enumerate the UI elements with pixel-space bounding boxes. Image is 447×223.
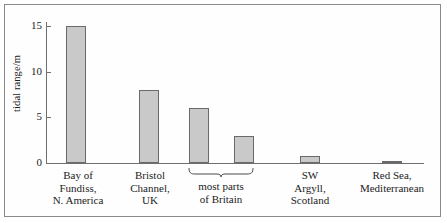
cat-line: SW [273,169,347,182]
cat-line: Argyll, [273,182,347,195]
cat-line: Mediterranean [340,182,444,195]
bar-bristol-channel [139,90,159,163]
brace-icon [188,168,254,177]
bar-britain-low [234,136,254,163]
cat-line: Bristol [111,169,189,182]
cat-line: Red Sea, [340,169,444,182]
cat-line: Scotland [273,194,347,207]
y-tick-mark-15 [46,26,51,27]
y-tick-mark-10 [46,72,51,73]
cat-line: of Britain [181,193,261,206]
y-tick-label-0: 0 [18,156,42,168]
cat-line: Channel, [111,182,189,195]
bar-bay-of-fundiss [66,26,86,163]
category-label-sw-argyll: SW Argyll, Scotland [273,169,347,207]
y-tick-label-15: 15 [18,19,42,31]
category-label-bristol-channel: Bristol Channel, UK [111,169,189,207]
bar-red-sea [382,161,402,163]
x-axis-line [46,163,424,164]
bar-chart: tidal range/m 15 10 5 0 Bay of Fundiss, … [0,0,447,223]
category-label-most-parts-of-britain: most parts of Britain [181,180,261,205]
y-tick-label-10: 10 [18,65,42,77]
cat-line: UK [111,194,189,207]
bar-britain-high [189,108,209,163]
y-tick-mark-5 [46,117,51,118]
y-tick-label-5: 5 [18,110,42,122]
bar-sw-argyll [300,156,320,163]
cat-line: most parts [181,180,261,193]
y-tick-mark-0 [46,163,51,164]
y-axis-line [46,22,47,164]
category-label-red-sea: Red Sea, Mediterranean [340,169,444,194]
